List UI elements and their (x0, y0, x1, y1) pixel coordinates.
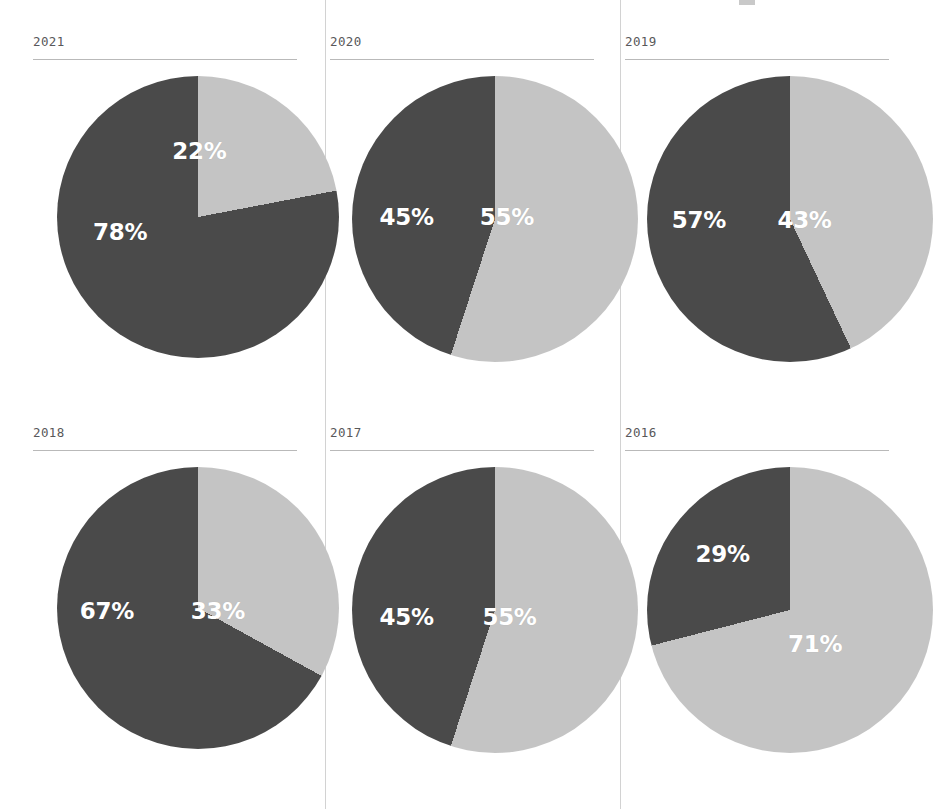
slice-label-light: 71% (788, 631, 842, 657)
panel-rule (330, 450, 594, 451)
slice-label-dark: 57% (672, 207, 726, 233)
panel-year-label: 2016 (625, 424, 920, 441)
pie-panel-2017: 201755%45% (330, 424, 625, 755)
pie-panel-2016: 201671%29% (625, 424, 920, 755)
pie-wrap: 43%57% (625, 64, 889, 364)
slice-label-light: 43% (777, 207, 831, 233)
panel-rule (330, 59, 594, 60)
panel-year-label: 2019 (625, 33, 920, 50)
slice-label-dark: 67% (80, 598, 134, 624)
panel-rule (33, 59, 297, 60)
pie-2021[interactable] (57, 76, 339, 358)
slice-label-light: 22% (172, 138, 226, 164)
panel-year-label: 2021 (33, 33, 328, 50)
panel-rule (33, 450, 297, 451)
pie-panel-2020: 202055%45% (330, 33, 625, 364)
pie-wrap: 71%29% (625, 455, 889, 755)
slice-label-dark: 29% (696, 541, 750, 567)
pie-panel-2021: 202122%78% (33, 33, 328, 364)
panel-rule (625, 450, 889, 451)
pie-panel-2018: 201833%67% (33, 424, 328, 755)
pie-panel-2019: 201943%57% (625, 33, 920, 364)
slice-label-dark: 45% (379, 204, 433, 230)
panel-rule (625, 59, 889, 60)
panel-year-label: 2018 (33, 424, 328, 441)
pie-wrap: 55%45% (330, 64, 594, 364)
slice-label-light: 55% (482, 604, 536, 630)
pie-wrap: 22%78% (33, 64, 297, 364)
slice-label-light: 55% (480, 204, 534, 230)
panel-year-label: 2020 (330, 33, 625, 50)
slice-label-dark: 78% (93, 219, 147, 245)
slice-label-dark: 45% (379, 604, 433, 630)
slice-label-light: 33% (191, 598, 245, 624)
pie-wrap: 33%67% (33, 455, 297, 755)
pie-wrap: 55%45% (330, 455, 594, 755)
panel-year-label: 2017 (330, 424, 625, 441)
pie-2016[interactable] (647, 467, 933, 753)
